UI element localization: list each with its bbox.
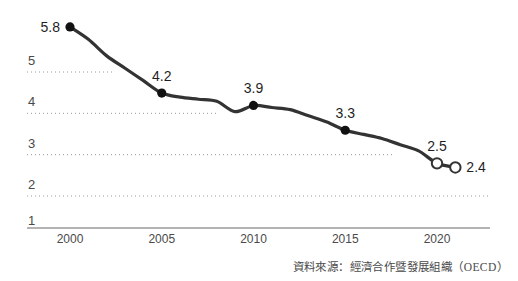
source-note: 資料來源：經濟合作暨發展組織（OECD）: [293, 258, 508, 274]
data-point-marker: [341, 126, 350, 135]
x-axis-tick-label: 2015: [332, 232, 359, 246]
line-chart: 54321 20002005201020152020 5.84.23.93.32…: [0, 0, 518, 281]
y-axis-tick-labels: 54321: [28, 53, 35, 228]
data-point-marker: [249, 101, 258, 110]
chart-container: 54321 20002005201020152020 5.84.23.93.32…: [0, 0, 518, 281]
data-point-marker: [450, 162, 460, 172]
data-point-label: 3.9: [244, 80, 264, 96]
y-axis-tick-label: 1: [28, 213, 35, 228]
y-axis-tick-label: 2: [28, 177, 35, 192]
data-point-label: 3.3: [336, 105, 356, 121]
data-point-label: 2.4: [466, 159, 486, 175]
data-point-label: 4.2: [152, 68, 172, 84]
data-point-marker: [432, 158, 442, 168]
x-axis-tick-label: 2005: [148, 232, 175, 246]
x-axis-tick-label: 2000: [57, 232, 84, 246]
x-axis-tick-labels: 20002005201020152020: [57, 232, 451, 246]
data-point-marker: [157, 88, 166, 97]
data-line: [70, 27, 455, 168]
y-axis-tick-label: 4: [28, 94, 35, 109]
x-axis-tick-label: 2010: [240, 232, 267, 246]
data-point-label: 2.5: [427, 138, 447, 154]
y-axis-tick-label: 5: [28, 53, 35, 68]
data-point-markers: [65, 22, 460, 172]
data-point-label: 5.8: [41, 19, 61, 35]
y-axis-tick-label: 3: [28, 136, 35, 151]
data-point-marker: [65, 22, 74, 31]
x-axis-tick-label: 2020: [424, 232, 451, 246]
